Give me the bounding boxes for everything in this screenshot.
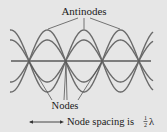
node-leader-line (29, 62, 52, 100)
standing-wave-diagram: Antinodes Nodes Node spacing is 1 2 λ (0, 0, 167, 132)
node-spacing-arrow (29, 120, 64, 123)
node-leader-line (66, 62, 67, 100)
node-leader-line (64, 62, 66, 100)
node-leader-lines (29, 62, 102, 100)
nodes-label: Nodes (52, 100, 79, 111)
antinodes-label: Antinodes (61, 5, 106, 17)
fraction-numerator: 1 (144, 115, 147, 121)
antinode-leader-lines (48, 18, 120, 29)
antinode-leader-line (48, 18, 78, 29)
antinode-leader-line (90, 18, 120, 29)
lambda-symbol: λ (149, 116, 155, 127)
node-spacing-label: Node spacing is (67, 116, 134, 127)
fraction-denominator: 2 (144, 122, 147, 128)
half-fraction: 1 2 (144, 115, 148, 128)
node-spacing-text: Node spacing is (67, 116, 134, 127)
